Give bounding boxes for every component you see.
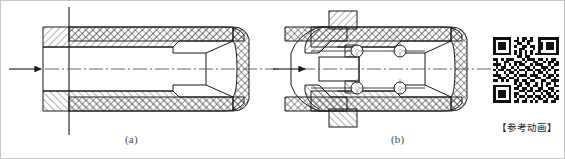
qr-code-canvas[interactable] bbox=[493, 37, 559, 103]
liner-bottom bbox=[43, 91, 233, 111]
view-b bbox=[273, 11, 491, 127]
view-a bbox=[9, 7, 279, 135]
liner-top bbox=[43, 27, 233, 47]
caption-b: (b) bbox=[391, 133, 404, 145]
qr-code-label: 【参考动画】 bbox=[490, 120, 564, 134]
technical-drawing bbox=[1, 1, 565, 159]
figure-page: (a) (b) 【参考动画】 bbox=[0, 0, 565, 159]
qr-code[interactable] bbox=[493, 37, 559, 103]
flange-top bbox=[329, 11, 357, 29]
caption-a: (a) bbox=[125, 133, 138, 145]
flange-bottom bbox=[329, 109, 357, 127]
